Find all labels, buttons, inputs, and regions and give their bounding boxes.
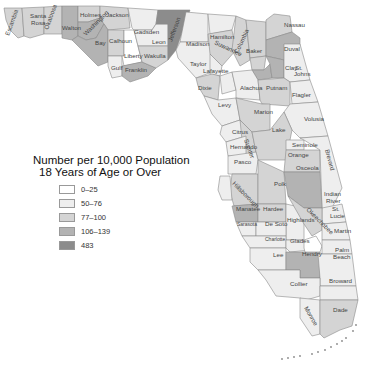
svg-text:Glades: Glades bbox=[290, 237, 310, 244]
legend: 0–25 50–76 77–100 106–139 483 bbox=[59, 182, 110, 252]
svg-text:Charlotte: Charlotte bbox=[265, 236, 286, 242]
svg-text:Lee: Lee bbox=[273, 251, 284, 258]
svg-text:Baker: Baker bbox=[246, 47, 262, 54]
legend-item: 77–100 bbox=[59, 210, 110, 224]
svg-text:Alachua: Alachua bbox=[240, 84, 263, 91]
legend-item: 0–25 bbox=[59, 182, 110, 196]
county-gadsden bbox=[128, 8, 158, 30]
svg-text:Sarasota: Sarasota bbox=[237, 221, 257, 227]
legend-label: 50–76 bbox=[81, 199, 102, 208]
county-putnam bbox=[258, 78, 290, 106]
legend-swatch bbox=[59, 185, 75, 194]
svg-text:Walton: Walton bbox=[62, 24, 82, 31]
florida-choropleth-map: SantaRosa Walton Holmes Jackson Bay Calh… bbox=[0, 0, 371, 367]
svg-text:Nassau: Nassau bbox=[284, 21, 306, 28]
svg-text:St.: St. bbox=[332, 205, 340, 212]
svg-text:Wakulla: Wakulla bbox=[144, 52, 166, 59]
svg-text:Polk: Polk bbox=[274, 180, 287, 187]
legend-label: 77–100 bbox=[81, 213, 106, 222]
legend-item: 50–76 bbox=[59, 196, 110, 210]
svg-text:De Soto: De Soto bbox=[265, 220, 288, 227]
legend-item: 483 bbox=[59, 238, 110, 252]
legend-title: Number per 10,000 Population 18 Years of… bbox=[33, 154, 190, 178]
svg-text:Martin: Martin bbox=[334, 227, 352, 234]
legend-label: 0–25 bbox=[81, 185, 98, 194]
legend-item: 106–139 bbox=[59, 224, 110, 238]
svg-text:Hardee: Hardee bbox=[263, 205, 284, 212]
svg-text:Pasco: Pasco bbox=[234, 158, 252, 165]
svg-text:Marion: Marion bbox=[254, 108, 273, 115]
legend-label: 483 bbox=[81, 241, 94, 250]
svg-text:Bay: Bay bbox=[95, 39, 107, 46]
svg-text:Broward: Broward bbox=[329, 277, 353, 284]
svg-text:River: River bbox=[326, 197, 340, 204]
svg-text:Dade: Dade bbox=[333, 306, 348, 313]
svg-text:Levy: Levy bbox=[218, 101, 232, 108]
svg-text:Lafayette: Lafayette bbox=[203, 67, 229, 74]
svg-text:Calhoun: Calhoun bbox=[109, 37, 133, 44]
legend-swatch bbox=[59, 227, 75, 236]
svg-text:Duval: Duval bbox=[284, 45, 300, 52]
svg-text:Gadsden: Gadsden bbox=[134, 28, 160, 35]
svg-text:Liberty: Liberty bbox=[124, 52, 143, 59]
county-union bbox=[250, 56, 266, 70]
svg-text:Taylor: Taylor bbox=[190, 60, 207, 67]
svg-text:Lake: Lake bbox=[272, 126, 286, 133]
svg-text:Osceola: Osceola bbox=[296, 164, 319, 171]
svg-text:Lucie: Lucie bbox=[330, 212, 345, 219]
svg-text:Putnam: Putnam bbox=[266, 84, 287, 91]
svg-text:Hamilton: Hamilton bbox=[210, 33, 235, 40]
legend-swatch bbox=[59, 241, 75, 250]
county-pinellas bbox=[218, 176, 232, 200]
svg-text:Hendry: Hendry bbox=[302, 250, 323, 257]
svg-text:Seminole: Seminole bbox=[292, 141, 318, 148]
map-canvas: SantaRosa Walton Holmes Jackson Bay Calh… bbox=[0, 0, 371, 367]
svg-text:Orange: Orange bbox=[288, 151, 309, 158]
svg-text:Highlands: Highlands bbox=[287, 216, 315, 223]
svg-text:Volusia: Volusia bbox=[304, 115, 325, 122]
county-osceola bbox=[284, 172, 322, 208]
svg-text:Madison: Madison bbox=[186, 40, 210, 47]
legend-swatch bbox=[59, 199, 75, 208]
svg-text:Gulf: Gulf bbox=[111, 64, 123, 71]
svg-text:Indian: Indian bbox=[324, 190, 341, 197]
svg-text:Citrus: Citrus bbox=[232, 128, 248, 135]
legend-title-line1: Number per 10,000 Population bbox=[33, 154, 190, 166]
county-walton bbox=[62, 6, 78, 40]
legend-label: 106–139 bbox=[81, 227, 110, 236]
svg-text:Santa: Santa bbox=[30, 12, 47, 19]
legend-title-line2: 18 Years of Age or Over bbox=[33, 166, 190, 178]
svg-text:Leon: Leon bbox=[152, 38, 166, 45]
svg-text:Franklin: Franklin bbox=[125, 66, 148, 73]
svg-text:Palm: Palm bbox=[335, 246, 349, 253]
county-broward bbox=[320, 286, 358, 300]
svg-text:Collier: Collier bbox=[290, 280, 308, 287]
legend-swatch bbox=[59, 213, 75, 222]
svg-text:Flagler: Flagler bbox=[292, 91, 311, 98]
svg-text:Beach: Beach bbox=[333, 253, 351, 260]
svg-text:Johns: Johns bbox=[294, 70, 311, 77]
svg-text:Jackson: Jackson bbox=[106, 11, 129, 18]
svg-text:Dixie: Dixie bbox=[198, 84, 212, 91]
